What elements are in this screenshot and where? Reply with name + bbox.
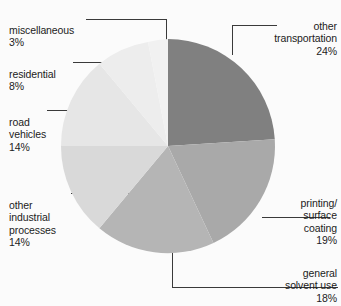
- label-general-solvent-use: general solvent use 18%: [217, 255, 337, 306]
- label-residential: residential 8%: [9, 56, 89, 105]
- label-road-vehicles: road vehicles 14%: [9, 104, 79, 165]
- label-road-vehicles-text: road vehicles: [9, 116, 46, 140]
- label-residential-text: residential: [9, 68, 56, 80]
- label-other-transportation-text: other transportation: [274, 20, 337, 44]
- label-printing-surface-coating-pct: 19%: [227, 234, 337, 246]
- label-printing-surface-coating: printing/ surface coating 19%: [227, 185, 337, 258]
- label-other-industrial-processes: other industrial processes 14%: [9, 187, 89, 260]
- label-miscellaneous-text: miscellaneous: [9, 24, 74, 36]
- label-road-vehicles-pct: 14%: [9, 141, 79, 153]
- label-general-solvent-use-text: general solvent use: [285, 267, 337, 291]
- label-other-industrial-processes-pct: 14%: [9, 236, 89, 248]
- label-residential-pct: 8%: [9, 80, 89, 92]
- label-other-transportation: other transportation 24%: [217, 8, 337, 69]
- label-other-transportation-pct: 24%: [217, 45, 337, 57]
- label-miscellaneous-pct: 3%: [9, 36, 99, 48]
- label-miscellaneous: miscellaneous 3%: [9, 12, 99, 61]
- label-printing-surface-coating-text: printing/ surface coating: [301, 197, 337, 233]
- label-general-solvent-use-pct: 18%: [217, 292, 337, 304]
- label-other-industrial-processes-text: other industrial processes: [9, 199, 56, 235]
